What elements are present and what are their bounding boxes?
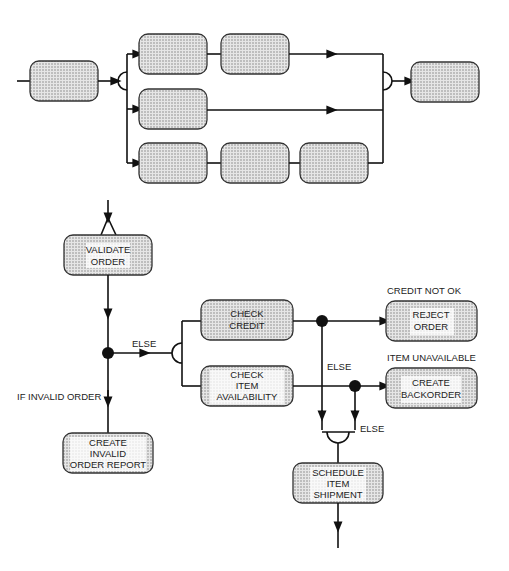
flow-diagram: VALIDATE ORDER ELSE IF INVALID ORDER CRE… xyxy=(0,0,509,571)
svg-text:VALIDATE: VALIDATE xyxy=(86,244,131,255)
svg-text:INVALID: INVALID xyxy=(90,448,126,459)
bottom-diagram: VALIDATE ORDER ELSE IF INVALID ORDER CRE… xyxy=(17,200,477,548)
svg-text:CREDIT: CREDIT xyxy=(229,320,265,331)
svg-text:REJECT: REJECT xyxy=(413,309,450,320)
split-and-icon-2 xyxy=(172,343,182,363)
svg-text:CHECK: CHECK xyxy=(230,369,264,380)
svg-text:CHECK: CHECK xyxy=(230,308,264,319)
node-create-backorder: CREATE BACKORDER xyxy=(386,368,477,408)
split-and-icon xyxy=(118,72,127,90)
label-item-unavailable: ITEM UNAVAILABLE xyxy=(387,352,476,363)
svg-text:CREATE: CREATE xyxy=(412,377,450,388)
svg-text:AVAILABILITY: AVAILABILITY xyxy=(217,391,279,402)
svg-text:SCHEDULE: SCHEDULE xyxy=(312,467,364,478)
svg-text:SHIPMENT: SHIPMENT xyxy=(313,489,362,500)
node-create-invalid-order-report: CREATE INVALID ORDER REPORT xyxy=(63,433,153,473)
merge-or-icon xyxy=(327,432,349,443)
top-diagram xyxy=(17,34,479,183)
box-row1-a xyxy=(139,34,207,74)
svg-text:ITEM: ITEM xyxy=(236,380,259,391)
node-schedule-item-shipment: SCHEDULE ITEM SHIPMENT xyxy=(293,463,383,503)
node-check-item-availability: CHECK ITEM AVAILABILITY xyxy=(201,366,293,406)
label-else-item: ELSE xyxy=(360,423,384,434)
label-else-credit: ELSE xyxy=(327,361,351,372)
box-row2-a xyxy=(139,89,207,129)
box-row3-c xyxy=(300,143,368,183)
node-check-credit: CHECK CREDIT xyxy=(201,300,293,340)
label-if-invalid: IF INVALID ORDER xyxy=(17,391,101,402)
label-credit-not-ok: CREDIT NOT OK xyxy=(387,285,462,296)
svg-text:ORDER REPORT: ORDER REPORT xyxy=(70,459,147,470)
start-box xyxy=(30,61,98,101)
svg-text:BACKORDER: BACKORDER xyxy=(401,389,461,400)
box-row3-a xyxy=(139,143,207,183)
box-row1-b xyxy=(221,34,289,74)
node-reject-order: REJECT ORDER xyxy=(386,301,477,341)
end-box xyxy=(411,62,479,102)
svg-text:ITEM: ITEM xyxy=(327,478,350,489)
svg-text:CREATE: CREATE xyxy=(89,437,127,448)
node-validate-order: VALIDATE ORDER xyxy=(64,235,152,275)
merge-and-icon xyxy=(383,72,392,90)
label-else-main: ELSE xyxy=(132,338,156,349)
svg-text:ORDER: ORDER xyxy=(91,256,125,267)
box-row3-b xyxy=(221,143,289,183)
svg-text:ORDER: ORDER xyxy=(414,321,448,332)
